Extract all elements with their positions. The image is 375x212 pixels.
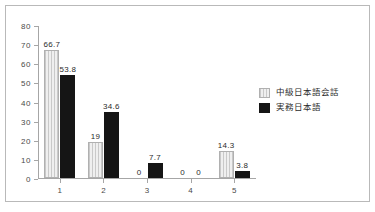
value-label-series-0-category-1: 66.7 xyxy=(43,40,60,49)
y-tick-label: 60 xyxy=(21,60,31,69)
y-tick xyxy=(34,64,38,65)
x-tick xyxy=(103,179,104,183)
bar-series-1-category-2 xyxy=(104,112,119,178)
bar-series-0-category-2 xyxy=(88,142,103,178)
y-tick-label: 30 xyxy=(21,117,31,126)
legend-item-series-1: 実務日本語 xyxy=(259,102,339,113)
bar-series-1-category-1 xyxy=(60,75,75,178)
value-label-series-1-category-4: 0 xyxy=(196,168,201,177)
y-tick-label: 70 xyxy=(21,41,31,50)
plot-area: 01020304050607080 12345 66.753.81934.607… xyxy=(38,26,256,179)
x-tick-label: 2 xyxy=(101,186,105,195)
y-tick xyxy=(34,141,38,142)
legend-item-series-0: 中級日本語会話 xyxy=(259,87,339,98)
bar-series-0-category-5 xyxy=(219,151,234,178)
y-tick-label: 20 xyxy=(21,136,31,145)
x-tick-label: 3 xyxy=(145,186,149,195)
legend-label-series-1: 実務日本語 xyxy=(276,102,321,113)
y-tick xyxy=(34,179,38,180)
x-tick xyxy=(191,179,192,183)
value-label-series-0-category-5: 14.3 xyxy=(218,141,235,150)
value-label-series-0-category-4: 0 xyxy=(180,168,185,177)
chart-frame: 01020304050607080 12345 66.753.81934.607… xyxy=(5,5,370,202)
x-tick xyxy=(60,179,61,183)
y-tick-label: 50 xyxy=(21,79,31,88)
y-tick-label: 10 xyxy=(21,155,31,164)
y-tick xyxy=(34,45,38,46)
value-label-series-0-category-3: 0 xyxy=(137,168,142,177)
legend-swatch-series-1 xyxy=(259,103,270,113)
y-tick xyxy=(34,26,38,27)
y-tick-label: 40 xyxy=(21,98,31,107)
y-tick-label: 80 xyxy=(21,22,31,31)
value-label-series-1-category-1: 53.8 xyxy=(59,65,76,74)
y-axis-line xyxy=(38,26,39,179)
y-tick xyxy=(34,160,38,161)
x-tick-label: 5 xyxy=(232,186,236,195)
x-tick xyxy=(234,179,235,183)
y-tick xyxy=(34,103,38,104)
legend-swatch-series-0 xyxy=(259,88,270,98)
x-tick-label: 4 xyxy=(188,186,192,195)
chart-legend: 中級日本語会話 実務日本語 xyxy=(259,87,339,117)
bar-series-1-category-5 xyxy=(235,171,250,178)
value-label-series-0-category-2: 19 xyxy=(91,132,101,141)
x-tick-label: 1 xyxy=(58,186,62,195)
bar-series-0-category-1 xyxy=(44,50,59,178)
y-tick xyxy=(34,122,38,123)
x-tick xyxy=(147,179,148,183)
y-tick xyxy=(34,83,38,84)
value-label-series-1-category-3: 7.7 xyxy=(149,153,161,162)
value-label-series-1-category-2: 34.6 xyxy=(103,102,120,111)
y-tick-label: 0 xyxy=(26,175,31,184)
bar-series-1-category-3 xyxy=(148,163,163,178)
value-label-series-1-category-5: 3.8 xyxy=(236,161,248,170)
legend-label-series-0: 中級日本語会話 xyxy=(276,87,339,98)
